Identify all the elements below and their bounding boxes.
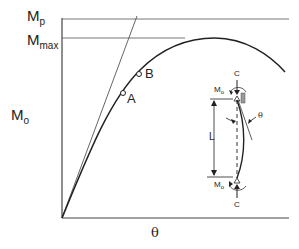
- point-a-marker: [121, 91, 126, 96]
- mmax-label: Mmax: [27, 32, 58, 47]
- tangent-line: [62, 16, 137, 218]
- x-axis-label: θ: [151, 226, 159, 239]
- bottom-moment-label: Mo: [214, 181, 224, 189]
- length-arrow-down: [211, 170, 217, 176]
- bottom-load-arrowhead: [234, 184, 240, 189]
- y-axis-label: Mo: [11, 107, 29, 122]
- bottom-load-label: C: [234, 201, 240, 209]
- mp-label: Mp: [27, 8, 45, 23]
- rotation-label: θ: [258, 112, 263, 120]
- length-label: L: [209, 132, 215, 142]
- bottom-moment-arrowhead: [229, 181, 233, 187]
- point-a-label: A: [127, 92, 136, 105]
- length-arrow-up: [211, 100, 217, 106]
- point-b-label: B: [145, 67, 154, 80]
- deflected-column: [237, 100, 244, 178]
- bottom-pin-support: [234, 178, 240, 183]
- point-b-marker: [137, 72, 142, 77]
- top-load-arrowhead: [234, 90, 240, 95]
- top-moment-label: Mo: [214, 86, 224, 94]
- theta-arrow-right-shaft: [249, 117, 256, 122]
- top-spring: [241, 93, 245, 103]
- top-load-label: C: [234, 70, 240, 78]
